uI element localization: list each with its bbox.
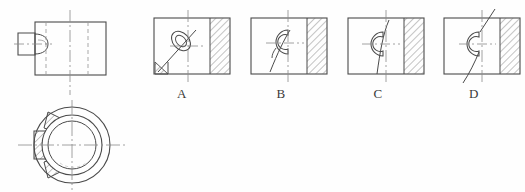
option-c-hatch-band — [404, 18, 424, 74]
option-d-break-line-lower — [463, 52, 479, 83]
option-a-label[interactable]: A — [172, 86, 192, 102]
drawing-canvas — [0, 0, 525, 192]
option-d-group[interactable] — [444, 9, 520, 83]
option-b-label[interactable]: B — [271, 86, 291, 102]
option-b-notch-line — [272, 48, 276, 58]
option-d-label[interactable]: D — [464, 86, 484, 102]
option-c-break-line — [377, 20, 389, 74]
option-b-group[interactable] — [251, 10, 327, 82]
option-b-hatch-band — [307, 18, 327, 74]
option-a-group[interactable] — [154, 10, 230, 82]
front-view-group — [14, 10, 106, 95]
option-a-bore-ellipse — [168, 27, 195, 54]
top-view-group — [18, 100, 126, 190]
option-c-group[interactable] — [348, 10, 424, 82]
option-a-hatch-band — [210, 18, 230, 74]
option-d-hatch-band — [500, 18, 520, 74]
option-c-label[interactable]: C — [368, 86, 388, 102]
option-b-bore-c-shape — [276, 30, 288, 54]
drawing-sheet: A B C D — [0, 0, 525, 192]
